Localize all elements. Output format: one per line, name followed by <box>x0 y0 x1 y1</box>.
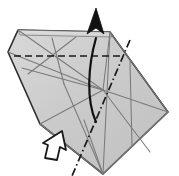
paper-body <box>8 30 168 174</box>
origami-diagram-root: Origami fold step diagram <box>0 0 179 176</box>
origami-figure <box>0 0 179 176</box>
fold-arrow-head <box>87 8 104 34</box>
push-direction-hollow-arrow <box>43 131 66 160</box>
